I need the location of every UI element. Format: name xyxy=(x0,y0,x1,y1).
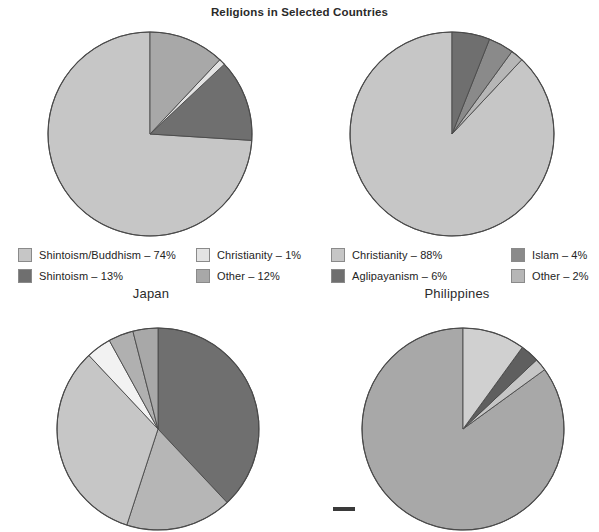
legend-swatch-icon xyxy=(18,269,32,283)
legend-row: Aglipayanism – 6% xyxy=(331,265,447,286)
legend-swatch-icon xyxy=(196,248,210,262)
legend-japan-col2: Christianity – 1% Other – 12% xyxy=(196,244,301,286)
legend-label: Other – 12% xyxy=(217,270,280,282)
pie-chart-japan xyxy=(46,30,254,238)
legend-swatch-icon xyxy=(331,248,345,262)
legend-item-christianity-japan[interactable]: Christianity – 1% xyxy=(196,248,301,262)
legend-row: Shintoism/Buddhism – 74% xyxy=(18,244,176,265)
legend-swatch-icon xyxy=(196,269,210,283)
country-label-philippines: Philippines xyxy=(362,286,552,301)
legend-label: Christianity – 88% xyxy=(352,249,442,261)
legend-item-islam[interactable]: Islam – 4% xyxy=(511,248,587,262)
legend-label: Aglipayanism – 6% xyxy=(352,270,447,282)
legend-row: Other – 2% xyxy=(511,265,589,286)
legend-japan-col1: Shintoism/Buddhism – 74% Shintoism – 13% xyxy=(18,244,176,286)
legend-swatch-icon xyxy=(18,248,32,262)
pie-chart-philippines xyxy=(348,30,556,238)
legend-row: Other – 12% xyxy=(196,265,301,286)
legend-item-other-japan[interactable]: Other – 12% xyxy=(196,269,280,283)
pie-bottom-right-svg xyxy=(360,326,566,532)
legend-label: Shintoism – 13% xyxy=(39,270,123,282)
legend-label: Islam – 4% xyxy=(532,249,587,261)
legend-item-christianity-philippines[interactable]: Christianity – 88% xyxy=(331,248,442,262)
legend-item-other-philippines[interactable]: Other – 2% xyxy=(511,269,589,283)
legend-philippines-col1: Christianity – 88% Aglipayanism – 6% xyxy=(331,244,447,286)
legend-swatch-icon xyxy=(511,248,525,262)
legend-row: Islam – 4% xyxy=(511,244,589,265)
legend-philippines-col2: Islam – 4% Other – 2% xyxy=(511,244,589,286)
legend-label: Shintoism/Buddhism – 74% xyxy=(39,249,176,261)
pie-chart-bottom-right xyxy=(360,326,566,532)
legend-swatch-icon xyxy=(511,269,525,283)
legend-row: Christianity – 88% xyxy=(331,244,447,265)
country-label-japan: Japan xyxy=(56,286,246,301)
legend-row: Christianity – 1% xyxy=(196,244,301,265)
page-title: Religions in Selected Countries xyxy=(0,6,599,18)
legend-item-shintoism-buddhism[interactable]: Shintoism/Buddhism – 74% xyxy=(18,248,176,262)
pie-philippines-svg xyxy=(348,30,556,238)
legend-item-aglipayanism[interactable]: Aglipayanism – 6% xyxy=(331,269,447,283)
legend-item-shintoism[interactable]: Shintoism – 13% xyxy=(18,269,123,283)
legend-swatch-icon xyxy=(331,269,345,283)
pie-bottom-left-svg xyxy=(55,326,261,532)
pie-chart-bottom-left xyxy=(55,326,261,532)
pie-japan-svg xyxy=(46,30,254,238)
legend-label: Christianity – 1% xyxy=(217,249,301,261)
legend-swatch-icon-cropped xyxy=(333,507,355,511)
legend-label: Other – 2% xyxy=(532,270,589,282)
legend-row: Shintoism – 13% xyxy=(18,265,176,286)
